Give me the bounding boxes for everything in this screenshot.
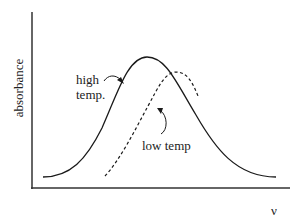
- high-temp-label-line2: temp.: [76, 88, 105, 102]
- x-axis-label: ν: [271, 204, 277, 218]
- diagram-canvas: [0, 0, 304, 219]
- low-temp-arrowhead-icon: [157, 108, 163, 114]
- low-temp-label: low temp: [142, 139, 191, 153]
- high-temp-label-line1: high: [76, 73, 99, 87]
- y-axis-label: absorbance: [11, 48, 27, 128]
